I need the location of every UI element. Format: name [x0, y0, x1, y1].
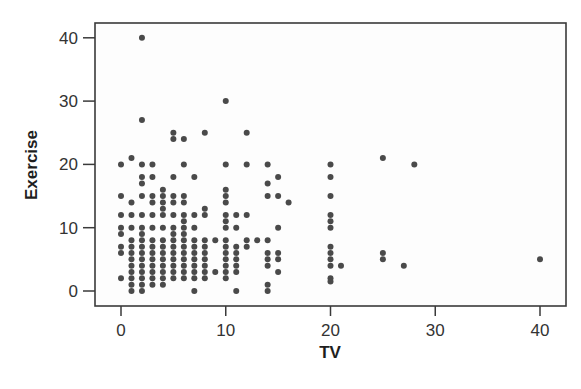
x-axis-title: TV	[319, 343, 341, 362]
data-point	[139, 231, 145, 237]
data-point	[265, 263, 271, 269]
data-point	[149, 161, 155, 167]
data-point	[139, 180, 145, 186]
data-point	[191, 212, 197, 218]
data-point	[181, 250, 187, 256]
data-point	[233, 269, 239, 275]
data-point	[223, 187, 229, 193]
data-point	[139, 193, 145, 199]
data-point	[170, 275, 176, 281]
data-point	[139, 225, 145, 231]
data-point	[118, 193, 124, 199]
data-point	[233, 250, 239, 256]
data-point	[149, 269, 155, 275]
data-point	[401, 263, 407, 269]
data-point	[139, 263, 145, 269]
data-point	[181, 225, 187, 231]
data-point	[170, 237, 176, 243]
data-point	[328, 256, 334, 262]
data-point	[170, 263, 176, 269]
data-point	[265, 256, 271, 262]
data-point	[328, 225, 334, 231]
data-point	[128, 199, 134, 205]
data-point	[128, 237, 134, 243]
data-point	[160, 193, 166, 199]
data-point	[202, 250, 208, 256]
y-axis: 010203040	[59, 29, 95, 301]
data-point	[265, 250, 271, 256]
data-point	[181, 136, 187, 142]
data-point	[233, 244, 239, 250]
data-point	[286, 199, 292, 205]
data-point	[160, 275, 166, 281]
data-point	[160, 256, 166, 262]
data-point	[139, 275, 145, 281]
data-point	[212, 269, 218, 275]
data-point	[149, 256, 155, 262]
data-point	[149, 244, 155, 250]
data-point	[181, 231, 187, 237]
y-tick-label: 0	[69, 282, 78, 301]
data-point	[191, 269, 197, 275]
data-point	[191, 174, 197, 180]
data-point	[223, 275, 229, 281]
data-point	[191, 225, 197, 231]
data-point	[244, 237, 250, 243]
data-point	[202, 244, 208, 250]
data-point	[128, 282, 134, 288]
x-tick-label: 10	[216, 321, 235, 340]
data-point	[128, 250, 134, 256]
data-point	[223, 256, 229, 262]
data-point	[170, 193, 176, 199]
data-point	[128, 256, 134, 262]
data-point	[223, 263, 229, 269]
data-point	[139, 117, 145, 123]
data-point	[160, 250, 166, 256]
data-point	[223, 237, 229, 243]
data-point	[223, 199, 229, 205]
data-point	[118, 275, 124, 281]
data-point	[202, 206, 208, 212]
data-point	[160, 206, 166, 212]
data-point	[170, 225, 176, 231]
data-point	[139, 244, 145, 250]
data-point	[139, 250, 145, 256]
data-point	[181, 269, 187, 275]
data-point	[181, 193, 187, 199]
data-point	[223, 212, 229, 218]
data-point	[181, 218, 187, 224]
data-point	[170, 269, 176, 275]
data-point	[202, 212, 208, 218]
data-point	[380, 250, 386, 256]
data-point	[275, 225, 281, 231]
data-point	[244, 161, 250, 167]
data-point	[191, 275, 197, 281]
data-point	[139, 237, 145, 243]
data-point	[275, 256, 281, 262]
data-point	[328, 161, 334, 167]
data-point	[328, 244, 334, 250]
data-point	[170, 130, 176, 136]
data-point	[244, 212, 250, 218]
data-point	[139, 161, 145, 167]
data-point	[160, 187, 166, 193]
data-point	[128, 155, 134, 161]
data-point	[139, 269, 145, 275]
data-point	[170, 256, 176, 262]
data-point	[244, 130, 250, 136]
data-point	[118, 212, 124, 218]
data-point	[149, 193, 155, 199]
x-tick-label: 20	[321, 321, 340, 340]
data-point	[275, 250, 281, 256]
data-point	[265, 282, 271, 288]
data-point	[149, 199, 155, 205]
data-point	[191, 244, 197, 250]
data-point	[139, 212, 145, 218]
x-axis: 010203040	[116, 306, 549, 340]
scatter-chart: 010203040 010203040 TV Exercise	[0, 0, 581, 389]
data-point	[328, 193, 334, 199]
data-point	[181, 212, 187, 218]
data-point	[139, 256, 145, 262]
data-point	[254, 237, 260, 243]
data-point	[233, 225, 239, 231]
